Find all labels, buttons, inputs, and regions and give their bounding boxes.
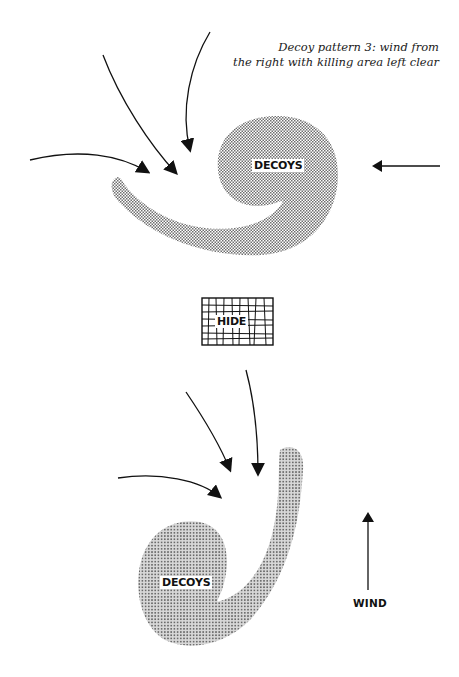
arrow-icon xyxy=(30,154,148,172)
decoy-pattern-diagram: Decoy pattern 3: wind from the right wit… xyxy=(0,0,459,677)
arrow-left-icon xyxy=(372,160,382,172)
top-approach-arrows xyxy=(30,32,210,173)
top-decoys-label: DECOYS xyxy=(252,159,304,172)
wind-label: WIND xyxy=(353,597,387,609)
hide-label: HIDE xyxy=(215,315,248,328)
caption-line-2: the right with killing area left clear xyxy=(199,55,439,70)
arrow-icon xyxy=(186,392,230,470)
arrow-icon xyxy=(118,476,220,497)
bottom-approach-arrows xyxy=(118,370,258,497)
top-wind-arrow xyxy=(372,160,440,172)
arrow-icon xyxy=(103,55,176,173)
caption-line-1: Decoy pattern 3: wind from xyxy=(199,40,439,55)
diagram-canvas xyxy=(0,0,459,677)
top-decoy-shape xyxy=(112,116,338,255)
arrow-icon xyxy=(246,370,258,474)
figure-caption: Decoy pattern 3: wind from the right wit… xyxy=(199,40,439,70)
bottom-wind-arrow xyxy=(362,512,374,590)
bottom-decoys-label: DECOYS xyxy=(160,576,212,589)
arrow-up-icon xyxy=(362,512,374,522)
